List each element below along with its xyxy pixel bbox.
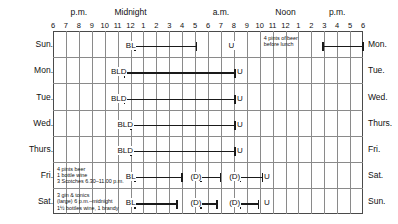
hour-tick-label: 12	[126, 21, 134, 30]
grid-line-vertical	[324, 31, 325, 214]
sleep-bar	[125, 99, 235, 100]
activity-code: (D)	[229, 198, 241, 207]
activity-code: BLD	[110, 94, 127, 103]
activity-code: BL	[125, 172, 136, 181]
sleep-bar-cap	[181, 173, 182, 182]
activity-code: U	[236, 120, 243, 129]
sleep-bar	[125, 72, 235, 73]
hour-tick-label: 4	[180, 21, 184, 30]
hour-tick-label: 6	[206, 21, 210, 30]
day-label-left: Mon.	[34, 65, 53, 75]
day-label-right: Wed.	[368, 92, 388, 102]
sleep-bar	[201, 177, 220, 178]
day-label-right: Sun.	[368, 196, 386, 206]
grid-line-horizontal	[53, 136, 363, 137]
activity-code: U	[228, 41, 235, 50]
hour-tick-label: 10	[255, 21, 263, 30]
day-label-right: Tue.	[368, 65, 385, 75]
activity-code: (D)	[190, 198, 202, 207]
grid-line-vertical	[247, 31, 248, 214]
grid-line-horizontal	[53, 57, 363, 58]
day-label-right: Sat.	[368, 170, 383, 180]
hour-tick-label: 5	[348, 21, 352, 30]
cell-annotation: 4 pints of beerbefore lunch	[264, 35, 298, 47]
grid-line-vertical	[260, 31, 261, 214]
grid-line-vertical	[208, 31, 209, 214]
grid-line-horizontal	[53, 83, 363, 84]
grid-line-vertical	[221, 31, 222, 214]
sleep-bar-cap	[176, 200, 177, 209]
grid-line-vertical	[169, 31, 170, 214]
period-caption: p.m.	[329, 7, 346, 17]
grid-line-vertical	[195, 31, 196, 214]
sleep-bar	[135, 46, 196, 47]
sleep-bar	[240, 203, 258, 204]
hour-tick-label: 7	[64, 21, 68, 30]
day-label-left: Sat.	[38, 196, 53, 206]
cell-annotation: 3 gin & tonics(large) 6 p.m.–midnight1½ …	[57, 192, 118, 211]
grid-line-horizontal	[53, 162, 363, 163]
hour-tick-label: 4	[335, 21, 339, 30]
activity-code: U	[236, 146, 243, 155]
sleep-bar-cap	[196, 42, 197, 51]
grid-line-vertical	[66, 31, 67, 214]
activity-code: BL	[125, 41, 136, 50]
day-label-left: Sun.	[36, 39, 54, 49]
hour-tick-label: 9	[90, 21, 94, 30]
hour-tick-label: 5	[193, 21, 197, 30]
hour-tick-label: 11	[269, 21, 277, 30]
sleep-bar	[131, 125, 235, 126]
annotation-line: (large) 6 p.m.–midnight	[57, 198, 118, 204]
hour-tick-label: 8	[77, 21, 81, 30]
grid-line-vertical	[79, 31, 80, 214]
activity-code: BL	[125, 198, 136, 207]
day-label-left: Thurs.	[29, 144, 53, 154]
sleep-bar-cap	[258, 200, 259, 209]
sleep-bar-cap	[220, 173, 221, 182]
sleep-bar	[323, 46, 363, 47]
period-caption: Noon	[275, 7, 295, 17]
hour-tick-label: 7	[219, 21, 223, 30]
activity-code: (D)	[190, 172, 202, 181]
grid-line-vertical	[286, 31, 287, 214]
period-caption: Midnight	[114, 7, 146, 17]
day-label-right: Fri.	[368, 144, 380, 154]
grid-line-vertical	[105, 31, 106, 214]
activity-code: (D)	[229, 172, 241, 181]
period-caption: p.m.	[71, 7, 88, 17]
day-label-left: Tue.	[36, 92, 53, 102]
activity-code: BLD	[117, 120, 134, 129]
hour-tick-label: 3	[167, 21, 171, 30]
hour-tick-label: 2	[309, 21, 313, 30]
sleep-bar	[240, 177, 262, 178]
grid-line-vertical	[337, 31, 338, 214]
activity-code: U	[236, 94, 243, 103]
hour-tick-label: 1	[296, 21, 300, 30]
sleep-bar	[131, 151, 235, 152]
cell-annotation: 4 pints beer1 bottle wine3 Scotches 6.30…	[57, 166, 124, 185]
sleep-bar-cap	[322, 42, 323, 51]
grid-line-vertical	[182, 31, 183, 214]
activity-code: BLD	[110, 67, 127, 76]
sleep-bar	[135, 177, 182, 178]
annotation-line: before lunch	[264, 41, 298, 47]
grid-line-vertical	[143, 31, 144, 214]
hour-tick-label: 1	[141, 21, 145, 30]
grid-line-vertical	[311, 31, 312, 214]
activity-code: U	[236, 67, 243, 76]
sleep-bar	[135, 203, 177, 204]
hour-tick-label: 6	[361, 21, 365, 30]
sleep-bar	[201, 203, 217, 204]
hour-tick-label: 12	[281, 21, 289, 30]
hour-tick-label: 8	[232, 21, 236, 30]
sleep-bar-cap	[216, 200, 217, 209]
grid-line-vertical	[298, 31, 299, 214]
grid-line-vertical	[273, 31, 274, 214]
grid-line-vertical	[350, 31, 351, 214]
hour-tick-label: 9	[245, 21, 249, 30]
grid-line-horizontal	[53, 188, 363, 189]
activity-code: U	[264, 198, 271, 207]
day-label-right: Mon.	[368, 39, 387, 49]
period-caption: a.m.	[213, 7, 230, 17]
annotation-line: 1½ bottles wine, 1 brandy	[57, 205, 118, 211]
